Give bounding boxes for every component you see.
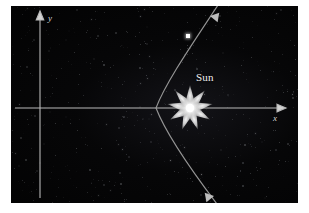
sun-label: Sun: [196, 72, 214, 83]
comet-marker: [186, 34, 190, 38]
y-axis-label: y: [48, 14, 52, 23]
x-axis-label: x: [273, 114, 277, 123]
night-sky-panel: y x Sun: [11, 6, 298, 203]
figure-canvas: y x Sun: [0, 0, 309, 213]
sun-core: [186, 104, 194, 112]
sun-star-graphic: [11, 6, 298, 203]
